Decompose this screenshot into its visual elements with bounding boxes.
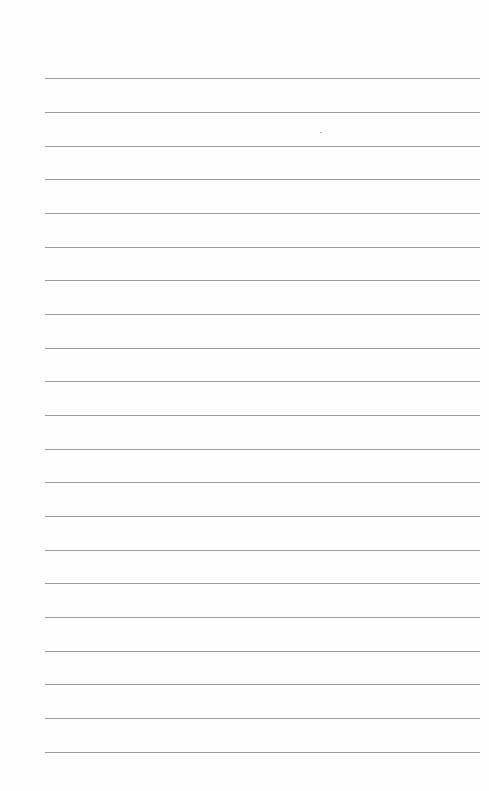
- ruled-line: [45, 752, 480, 753]
- ruled-line: [45, 179, 480, 180]
- ruled-line: [45, 348, 480, 349]
- ruled-line: [45, 516, 480, 517]
- ruled-line: [45, 314, 480, 315]
- ruled-line: [45, 112, 480, 113]
- ruled-line: [45, 449, 480, 450]
- ruled-line: [45, 718, 480, 719]
- ruled-line: [45, 280, 480, 281]
- ruled-line: [45, 684, 480, 685]
- ruled-line: [45, 213, 480, 214]
- ruled-line: [45, 78, 480, 79]
- ruled-line: [45, 583, 480, 584]
- paper-speck: [320, 132, 322, 133]
- ruled-line: [45, 482, 480, 483]
- ruled-line: [45, 247, 480, 248]
- ruled-line: [45, 617, 480, 618]
- ruled-line: [45, 381, 480, 382]
- lined-paper-page: [0, 0, 489, 791]
- ruled-line: [45, 415, 480, 416]
- ruled-line: [45, 550, 480, 551]
- ruled-line: [45, 651, 480, 652]
- ruled-line: [45, 146, 480, 147]
